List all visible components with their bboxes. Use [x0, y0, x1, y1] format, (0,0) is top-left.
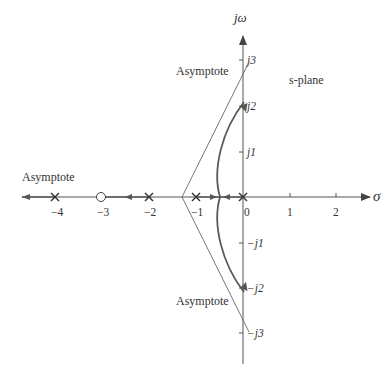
root-locus-diagram: σ jω −4 −3 −2 −1 0 1 2 j3 j2 j1 −j1 −j2 … [0, 0, 392, 384]
real-axis-label: σ [373, 188, 381, 204]
real-tick-label: −2 [144, 206, 156, 218]
real-tick-label: 0 [244, 206, 250, 218]
arrow-left-icon [22, 194, 30, 200]
imag-tick-label: j1 [245, 146, 256, 159]
imaginary-axis-label: jω [232, 10, 247, 25]
real-axis: σ [22, 188, 381, 204]
imag-tick-label: −j2 [247, 282, 264, 295]
imaginary-axis: jω [232, 10, 247, 364]
s-plane-label: s-plane [289, 73, 324, 87]
asymptote-label-left: Asymptote [22, 170, 75, 184]
arrow-left-icon [125, 194, 132, 200]
imag-tick-label: −j3 [247, 327, 264, 340]
asymptote-label-lower: Asymptote [176, 294, 229, 308]
asymptote-label-upper: Asymptote [176, 64, 229, 78]
real-tick-label: −4 [51, 206, 63, 218]
imag-tick-label: −j1 [247, 237, 264, 250]
real-tick-label: −3 [97, 206, 109, 218]
imag-tick-label: j3 [245, 54, 256, 67]
real-tick-label: 2 [333, 206, 339, 218]
zero-marker-icon [97, 193, 106, 202]
arrow-left-icon [223, 194, 230, 200]
real-tick-label: −1 [191, 206, 203, 218]
real-tick-label: 1 [287, 206, 293, 218]
arrow-right-icon [210, 194, 217, 200]
